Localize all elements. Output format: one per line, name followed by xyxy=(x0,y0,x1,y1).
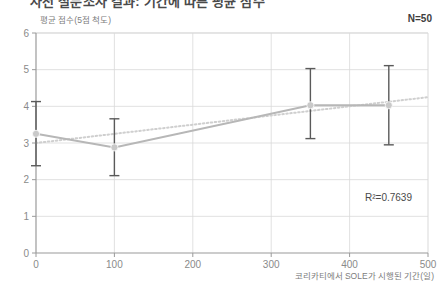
data-point-marker xyxy=(307,102,314,109)
line-chart: 0123456 0100200300400500 R²=0.7639 xyxy=(0,0,444,289)
y-tick-label: 5 xyxy=(23,64,29,75)
x-tick-label: 500 xyxy=(420,259,437,270)
y-tick-label: 1 xyxy=(23,211,29,222)
series-path xyxy=(36,105,389,147)
error-bars xyxy=(31,66,394,176)
x-tick-label: 400 xyxy=(341,259,358,270)
y-tick-label: 3 xyxy=(23,138,29,149)
data-point-marker xyxy=(32,130,39,137)
x-tick-label: 300 xyxy=(263,259,280,270)
x-tick-label: 0 xyxy=(33,259,39,270)
r-squared-annotation: R²=0.7639 xyxy=(365,192,412,203)
trendline-path xyxy=(36,97,428,143)
y-tick-label: 4 xyxy=(23,101,29,112)
x-tick-label: 100 xyxy=(106,259,123,270)
data-point-marker xyxy=(111,144,118,151)
x-tick-label: 200 xyxy=(184,259,201,270)
y-tick-label: 2 xyxy=(23,174,29,185)
y-tick-label: 6 xyxy=(23,28,29,39)
data-point-marker xyxy=(385,102,392,109)
trendline xyxy=(36,97,428,143)
y-tick-labels: 0123456 xyxy=(23,28,29,259)
y-tick-label: 0 xyxy=(23,248,29,259)
x-tick-marks xyxy=(36,253,428,257)
series-line xyxy=(36,105,389,147)
x-tick-labels: 0100200300400500 xyxy=(33,259,437,270)
r-squared-text: R²=0.7639 xyxy=(365,192,412,203)
